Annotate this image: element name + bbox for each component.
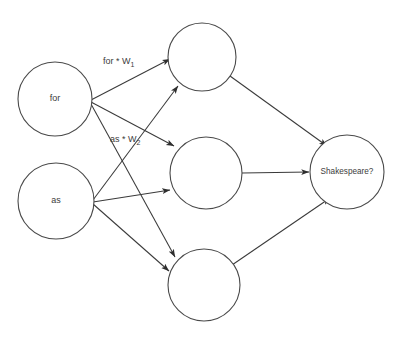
edge-label-for-w1: for * W1 — [103, 56, 135, 67]
edge-label-for-w1-base: for * W — [103, 56, 131, 66]
edge-hidden-3-to-output — [232, 198, 330, 265]
edge-labels-group: for * W1 as * W2 — [103, 56, 141, 145]
node-label-output: Shakespeare? — [321, 167, 374, 176]
edge-label-as-w2: as * W2 — [110, 134, 141, 145]
neural-network-diagram: for as Shakespeare? — [0, 0, 402, 337]
edge-as-to-hidden-2 — [93, 190, 170, 202]
node-input-for[interactable]: for — [18, 62, 92, 136]
node-label-input-as: as — [51, 195, 61, 205]
hidden-layer — [168, 23, 242, 321]
output-layer: Shakespeare? — [310, 135, 384, 209]
node-circle-hidden-1[interactable] — [168, 23, 236, 91]
edge-as-to-hidden-3 — [93, 204, 169, 271]
diagram-canvas: for as Shakespeare? — [0, 0, 402, 337]
edge-label-as-w2-base: as * W — [110, 134, 137, 144]
edge-hidden-2-to-output — [242, 172, 309, 173]
edge-label-for-w1-subscript: 1 — [131, 61, 135, 68]
node-hidden-2[interactable] — [170, 137, 242, 209]
node-label-input-for: for — [50, 93, 61, 103]
input-layer: for as — [18, 62, 94, 239]
node-circle-hidden-3[interactable] — [168, 249, 240, 321]
edge-label-as-w2-subscript: 2 — [137, 139, 141, 146]
node-input-as[interactable]: as — [18, 163, 94, 239]
node-hidden-3[interactable] — [168, 249, 240, 321]
node-circle-hidden-2[interactable] — [170, 137, 242, 209]
node-hidden-1[interactable] — [168, 23, 236, 91]
edge-hidden-1-to-output — [230, 76, 327, 146]
edge-for-to-hidden-3 — [91, 104, 175, 257]
node-output-shakespeare[interactable]: Shakespeare? — [310, 135, 384, 209]
